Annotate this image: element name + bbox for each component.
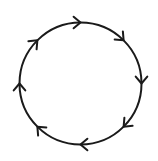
arrow-group bbox=[14, 17, 148, 151]
cycle-diagram bbox=[0, 0, 158, 161]
